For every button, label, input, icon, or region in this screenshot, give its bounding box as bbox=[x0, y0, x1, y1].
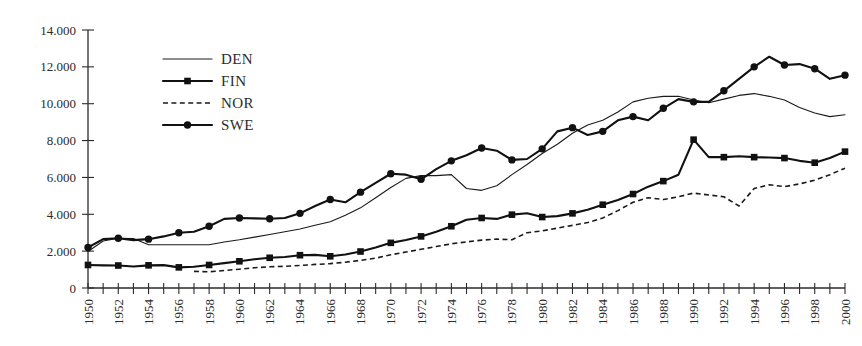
marker-fin bbox=[842, 148, 849, 155]
x-tick-label: 1990 bbox=[686, 299, 701, 325]
marker-swe bbox=[236, 214, 243, 221]
marker-fin bbox=[690, 136, 697, 143]
marker-fin bbox=[115, 262, 122, 269]
marker-fin bbox=[811, 159, 818, 166]
legend-marker-fin bbox=[184, 78, 191, 85]
x-tick-label: 1958 bbox=[202, 299, 217, 325]
x-tick-label: 1962 bbox=[262, 299, 277, 325]
y-tick-label: 0 bbox=[70, 281, 77, 296]
legend-label-fin: FIN bbox=[221, 73, 246, 89]
x-tick-label: 1996 bbox=[777, 299, 792, 326]
x-tick-label: 1976 bbox=[474, 299, 489, 326]
line-chart: 02.0004.0006.0008.00010.00012.00014.000 … bbox=[0, 0, 862, 346]
marker-swe bbox=[448, 157, 455, 164]
x-tick-label: 1974 bbox=[444, 299, 459, 326]
x-tick-label: 1984 bbox=[595, 299, 610, 326]
x-tick-label: 1954 bbox=[141, 299, 156, 326]
marker-swe bbox=[205, 223, 212, 230]
marker-swe bbox=[811, 65, 818, 72]
legend-label-den: DEN bbox=[221, 51, 253, 67]
marker-fin bbox=[660, 178, 667, 185]
y-tick-label: 6.000 bbox=[47, 170, 76, 185]
x-axis-ticks: 1950195219541956195819601962196419661968… bbox=[81, 283, 853, 325]
marker-fin bbox=[297, 252, 304, 259]
x-tick-label: 1970 bbox=[383, 299, 398, 325]
x-tick-label: 1982 bbox=[565, 299, 580, 325]
x-tick-label: 1994 bbox=[747, 299, 762, 326]
marker-swe bbox=[266, 215, 273, 222]
marker-fin bbox=[539, 214, 546, 221]
marker-swe bbox=[327, 196, 334, 203]
x-tick-label: 1968 bbox=[353, 299, 368, 325]
y-tick-label: 2.000 bbox=[47, 244, 76, 259]
y-tick-label: 4.000 bbox=[47, 207, 76, 222]
marker-fin bbox=[85, 262, 92, 269]
x-tick-label: 1950 bbox=[81, 299, 96, 325]
marker-swe bbox=[690, 98, 697, 105]
series-line-den bbox=[88, 94, 845, 252]
marker-fin bbox=[569, 210, 576, 217]
marker-swe bbox=[387, 170, 394, 177]
x-tick-label: 1978 bbox=[504, 299, 519, 325]
x-tick-label: 1960 bbox=[232, 299, 247, 325]
marker-fin bbox=[176, 264, 183, 271]
series-line-fin bbox=[88, 140, 845, 268]
marker-fin bbox=[327, 253, 334, 260]
marker-swe bbox=[115, 235, 122, 242]
marker-swe bbox=[84, 244, 91, 251]
marker-fin bbox=[599, 201, 606, 208]
marker-fin bbox=[236, 258, 243, 265]
marker-swe bbox=[478, 144, 485, 151]
x-tick-label: 1964 bbox=[292, 299, 307, 326]
legend-marker-swe bbox=[184, 121, 191, 128]
marker-swe bbox=[629, 113, 636, 120]
marker-swe bbox=[417, 176, 424, 183]
legend-label-swe: SWE bbox=[221, 117, 254, 133]
x-tick-label: 1988 bbox=[656, 299, 671, 325]
marker-swe bbox=[508, 156, 515, 163]
marker-swe bbox=[599, 128, 606, 135]
marker-fin bbox=[418, 233, 425, 240]
x-tick-label: 1980 bbox=[535, 299, 550, 325]
x-tick-label: 1972 bbox=[414, 299, 429, 325]
marker-swe bbox=[357, 188, 364, 195]
marker-fin bbox=[206, 262, 213, 269]
x-tick-label: 1986 bbox=[626, 299, 641, 326]
marker-swe bbox=[296, 210, 303, 217]
x-tick-label: 1998 bbox=[807, 299, 822, 325]
marker-swe bbox=[660, 105, 667, 112]
marker-swe bbox=[569, 124, 576, 131]
marker-fin bbox=[751, 154, 758, 161]
data-series-group bbox=[84, 57, 848, 272]
legend-label-nor: NOR bbox=[221, 95, 254, 111]
marker-swe bbox=[750, 63, 757, 70]
marker-swe bbox=[841, 71, 848, 78]
chart-legend: DENFINNORSWE bbox=[163, 51, 254, 133]
marker-fin bbox=[721, 154, 728, 161]
x-tick-label: 1966 bbox=[323, 299, 338, 326]
marker-fin bbox=[781, 155, 788, 162]
y-tick-label: 8.000 bbox=[47, 133, 76, 148]
legend-item-fin: FIN bbox=[163, 73, 246, 89]
marker-swe bbox=[781, 61, 788, 68]
x-tick-label: 1992 bbox=[716, 299, 731, 325]
marker-swe bbox=[145, 235, 152, 242]
x-tick-label: 2000 bbox=[838, 299, 853, 325]
marker-fin bbox=[388, 240, 395, 247]
marker-fin bbox=[357, 248, 364, 255]
legend-item-swe: SWE bbox=[163, 117, 254, 133]
legend-item-den: DEN bbox=[163, 51, 253, 67]
chart-container: 02.0004.0006.0008.00010.00012.00014.000 … bbox=[0, 0, 862, 346]
marker-swe bbox=[539, 145, 546, 152]
legend-item-nor: NOR bbox=[163, 95, 254, 111]
y-axis-ticks: 02.0004.0006.0008.00010.00012.00014.000 bbox=[40, 23, 94, 296]
marker-swe bbox=[720, 87, 727, 94]
marker-fin bbox=[630, 191, 637, 198]
marker-fin bbox=[145, 262, 152, 269]
marker-fin bbox=[509, 211, 516, 218]
y-tick-label: 10.000 bbox=[40, 96, 76, 111]
y-tick-label: 12.000 bbox=[40, 59, 76, 74]
marker-swe bbox=[175, 229, 182, 236]
marker-fin bbox=[478, 215, 485, 222]
marker-fin bbox=[448, 223, 455, 230]
